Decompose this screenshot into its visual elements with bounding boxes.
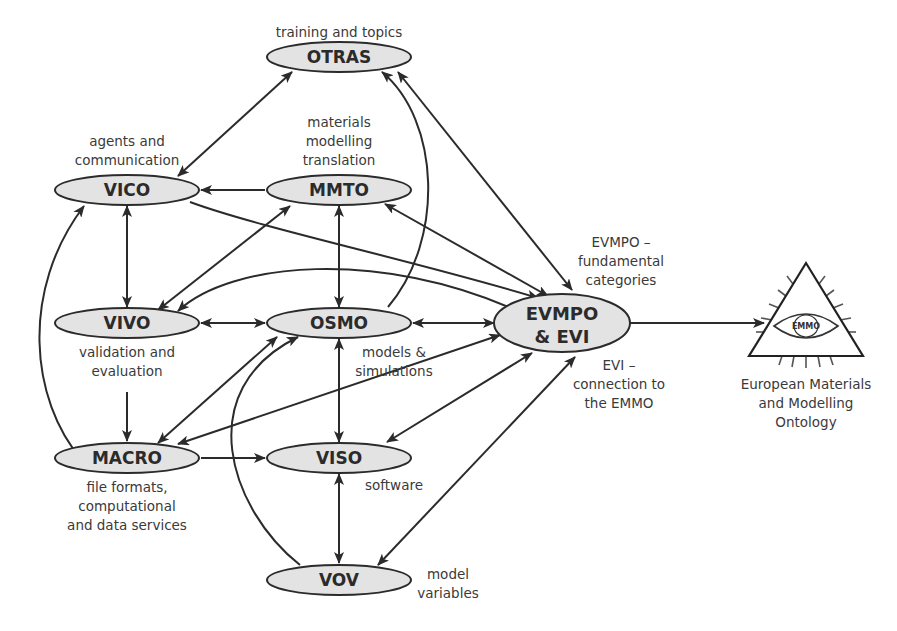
edge-vico-evmpo — [190, 202, 538, 298]
edge-otras-evmpo — [398, 72, 572, 290]
node-osmo[interactable]: OSMO models & simulations — [267, 308, 433, 379]
evi-description-line-2: connection to — [573, 376, 665, 392]
vico-label: VICO — [104, 180, 150, 200]
emmo-logo-text: EMMO — [792, 322, 820, 331]
mmto-label: MMTO — [309, 180, 369, 200]
evmpo-label-line-1: EVMPO — [526, 303, 599, 324]
edge-vivo-evmpo — [178, 269, 520, 312]
evi-description-line-3: the EMMO — [585, 395, 654, 411]
vico-description-line-1: agents and — [89, 133, 165, 149]
node-macro[interactable]: MACRO file formats, computational and da… — [55, 443, 199, 533]
evi-description-line-1: EVI – — [603, 357, 636, 373]
node-vivo[interactable]: VIVO validation and evaluation — [55, 308, 199, 379]
edge-mmto-evmpo — [385, 204, 548, 296]
otras-description: training and topics — [276, 24, 403, 40]
macro-description-line-1: file formats, — [86, 479, 167, 495]
otras-label: OTRAS — [307, 47, 372, 67]
emmo-caption-line-2: and Modelling — [759, 395, 854, 411]
osmo-description-line-2: simulations — [355, 363, 432, 379]
vivo-description-line-2: evaluation — [91, 363, 162, 379]
osmo-label: OSMO — [310, 313, 368, 333]
edge-mmto-vivo — [158, 206, 290, 310]
viso-label: VISO — [316, 448, 362, 468]
mmto-description-line-1: materials — [307, 114, 370, 130]
evmpo-description-line-3: categories — [586, 272, 657, 288]
vivo-label: VIVO — [104, 313, 151, 333]
node-viso[interactable]: VISO software — [267, 443, 423, 493]
evmpo-description-line-1: EVMPO – — [591, 234, 650, 250]
osmo-description-line-1: models & — [362, 344, 426, 360]
vico-description-line-2: communication — [75, 152, 179, 168]
edge-otras-vico — [178, 72, 292, 176]
emmo-logo[interactable]: EMMO European Materials and Modelling On… — [741, 263, 871, 430]
mmto-description-line-3: translation — [303, 152, 376, 168]
node-vico[interactable]: agents and communication VICO — [55, 133, 199, 205]
node-otras[interactable]: training and topics OTRAS — [267, 24, 411, 72]
ontology-network-diagram: training and topics OTRAS agents and com… — [0, 0, 897, 631]
node-mmto[interactable]: materials modelling translation MMTO — [267, 114, 411, 205]
macro-description-line-2: computational — [78, 498, 175, 514]
edge-osmo-macro — [158, 337, 277, 443]
evmpo-description-line-2: fundamental — [578, 253, 664, 269]
emmo-caption-line-1: European Materials — [741, 376, 871, 392]
macro-label: MACRO — [92, 448, 162, 468]
node-vov[interactable]: VOV model variables — [267, 565, 479, 601]
vov-description-line-2: variables — [417, 585, 479, 601]
evmpo-label-line-2: & EVI — [535, 326, 590, 347]
emmo-triangle-icon — [749, 263, 863, 356]
viso-description: software — [365, 477, 423, 493]
vov-label: VOV — [319, 570, 360, 590]
mmto-description-line-2: modelling — [306, 133, 373, 149]
emmo-caption-line-3: Ontology — [775, 414, 836, 430]
vivo-description-line-1: validation and — [79, 344, 175, 360]
vov-description-line-1: model — [427, 566, 469, 582]
macro-description-line-3: and data services — [67, 517, 187, 533]
